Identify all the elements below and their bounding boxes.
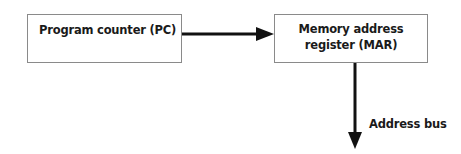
mar-to-bus-arrow: [348, 63, 362, 149]
pc-to-mar-arrow: [182, 27, 274, 41]
mar-label-line2: register (MAR): [275, 37, 427, 53]
mar-label-line1: Memory address: [275, 21, 427, 37]
address-bus-label: Address bus: [369, 116, 447, 132]
mar-label: Memory address register (MAR): [275, 15, 427, 53]
memory-address-register-box: Memory address register (MAR): [274, 14, 428, 63]
program-counter-box: Program counter (PC): [27, 14, 182, 63]
program-counter-label: Program counter (PC): [39, 22, 176, 38]
